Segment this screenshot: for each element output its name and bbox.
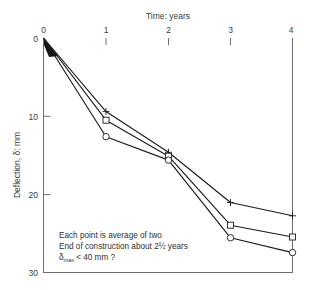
- annotation-line-1: Each point is average of two: [59, 231, 162, 240]
- deflection-time-chart: Time: years 0 1 2 3 4 0 10 20 30 Deflect…: [0, 0, 318, 290]
- x-tick-label-3: 3: [228, 25, 233, 35]
- y-tick-label-20: 20: [29, 190, 39, 200]
- series-3-line: [44, 38, 293, 253]
- x-axis-ticks: [44, 38, 293, 45]
- marker-plus: [289, 212, 296, 219]
- series-lines: [44, 38, 293, 253]
- annotation-block: Each point is average of two End of cons…: [59, 231, 188, 263]
- marker-circle: [289, 249, 295, 255]
- marker-circle: [165, 157, 171, 163]
- y-tick-label-10: 10: [29, 112, 39, 122]
- x-tick-label-0: 0: [41, 25, 46, 35]
- marker-square: [290, 234, 296, 240]
- y-tick-label-30: 30: [29, 268, 39, 278]
- series-1-line: [44, 38, 293, 216]
- delta-rest: < 40 mm ?: [76, 253, 115, 262]
- x-axis-title: Time: years: [146, 11, 190, 21]
- marker-square: [228, 222, 234, 228]
- series-2-line: [44, 38, 293, 237]
- annotation-line-2: End of construction about 2½ years: [59, 242, 188, 251]
- delta-subscript: max: [64, 257, 75, 263]
- chart-container: Time: years 0 1 2 3 4 0 10 20 30 Deflect…: [0, 0, 318, 290]
- marker-circle: [227, 235, 233, 241]
- x-tick-label-2: 2: [166, 25, 171, 35]
- y-axis-title: Deflection, δ: mm: [12, 132, 22, 198]
- annotation-line-3: δmax< 40 mm ?: [59, 253, 115, 263]
- marker-square: [103, 117, 109, 123]
- y-axis-ticks: [44, 116, 51, 194]
- x-tick-label-4: 4: [289, 25, 294, 35]
- marker-circle: [103, 134, 109, 140]
- y-tick-label-0: 0: [33, 34, 38, 44]
- series-1-markers: [103, 108, 297, 219]
- x-tick-label-1: 1: [104, 25, 109, 35]
